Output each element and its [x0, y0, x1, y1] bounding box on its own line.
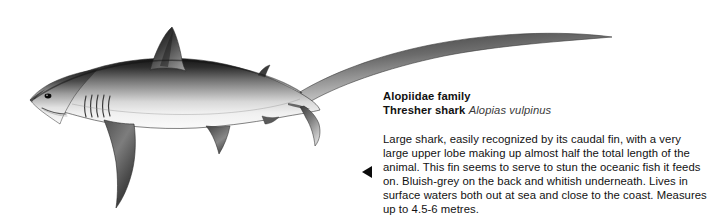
caudal-lower-lobe-shape [300, 106, 320, 146]
shark-illustration [0, 0, 360, 221]
family-name: Alopiidae family [383, 90, 471, 102]
pectoral-fin-shape [104, 120, 135, 208]
species-text-column: Alopiidae family Thresher shark Alopias … [383, 90, 711, 217]
scientific-name: Alopias vulpinus [469, 104, 552, 116]
shark-eye-highlight [46, 95, 48, 96]
shark-eye [45, 94, 52, 99]
common-name: Thresher shark [383, 104, 465, 116]
species-heading-block: Alopiidae family Thresher shark Alopias … [383, 90, 711, 117]
family-name-line: Alopiidae family [383, 90, 711, 104]
left-pointing-triangle-icon [362, 166, 372, 178]
species-description: Large shark, easily recognized by its ca… [383, 132, 709, 217]
species-name-line: Thresher shark Alopias vulpinus [383, 104, 711, 118]
species-entry-page: Alopiidae family Thresher shark Alopias … [0, 0, 711, 221]
pelvic-fin-shape [206, 126, 230, 154]
